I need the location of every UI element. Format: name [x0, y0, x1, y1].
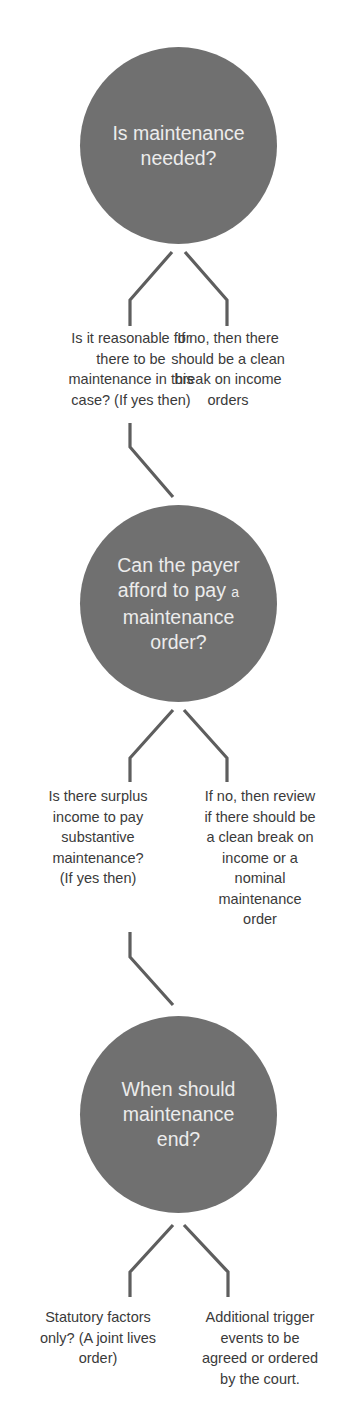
question-line3: maintenance order?	[123, 606, 235, 653]
question-line1: Can the payer	[117, 554, 240, 576]
question-text: Is maintenance needed?	[112, 121, 244, 171]
connector-step2-left	[130, 710, 173, 782]
connector-step2-to-step3	[130, 932, 173, 1005]
question-circle-maintenance-end: When should maintenance end?	[80, 1016, 277, 1213]
question-circle-payer-afford: Can the payer afford to pay a maintenanc…	[80, 505, 277, 702]
connector-step1-right	[185, 252, 227, 326]
yes-branch-text: Statutory factors only? (A joint lives o…	[18, 1307, 178, 1369]
connector-step3-right	[184, 1225, 228, 1297]
connector-step2-right	[184, 710, 227, 782]
connector-step1-to-step2	[130, 423, 173, 497]
connector-step1-left	[130, 252, 172, 326]
no-branch-text: If no, then review if there should be a …	[180, 786, 340, 930]
question-line2: afford to pay	[118, 579, 231, 601]
yes-branch-text: Is there surplus income to pay substanti…	[18, 786, 178, 889]
question-line2-small: a	[231, 584, 239, 600]
connector-step3-left	[130, 1225, 173, 1297]
no-branch-text: If no, then there should be a clean brea…	[148, 328, 308, 410]
question-text: Can the payer afford to pay a maintenanc…	[117, 553, 240, 655]
no-branch-text: Additional trigger events to be agreed o…	[180, 1307, 340, 1389]
question-circle-maintenance-needed: Is maintenance needed?	[80, 47, 277, 244]
question-text: When should maintenance end?	[122, 1077, 236, 1152]
